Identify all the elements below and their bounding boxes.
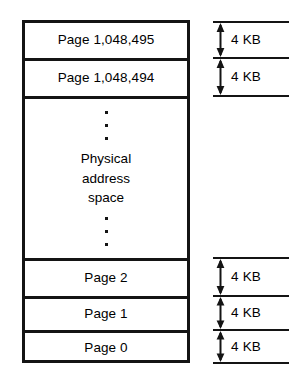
- physical-address-space-label: Physical address space: [81, 149, 131, 208]
- ellipsis-dot: [105, 243, 108, 246]
- memory-row-page-2: Page 2: [25, 261, 187, 296]
- memory-row-label: Page 1: [84, 306, 127, 323]
- memory-row-label: Page 1,048,494: [58, 70, 155, 87]
- measurement-label: 4 KB: [231, 270, 261, 284]
- ellipsis-dots-above: [105, 111, 108, 140]
- double-arrow-icon: [213, 23, 228, 57]
- measurement-label: 4 KB: [231, 70, 261, 84]
- physical-address-space-stack: Physical address space: [25, 111, 187, 246]
- measurement-label: 4 KB: [231, 306, 261, 320]
- double-arrow-icon: [213, 331, 228, 362]
- ellipsis-dot: [105, 230, 108, 233]
- ellipsis-dot: [105, 124, 108, 127]
- double-arrow-icon: [213, 59, 228, 95]
- measurement-label: 4 KB: [231, 340, 261, 354]
- memory-row-page-1: Page 1: [25, 299, 187, 330]
- ellipsis-dot: [105, 217, 108, 220]
- double-arrow-icon: [213, 259, 228, 295]
- measurement-bottom-2: 4 KB: [213, 297, 289, 329]
- measure-tick-line: [213, 95, 289, 97]
- ellipsis-dots-below: [105, 217, 108, 246]
- memory-paging-diagram: Page 1,048,495 Page 1,048,494 Physical a…: [0, 0, 302, 383]
- double-arrow-icon: [213, 297, 228, 329]
- measure-tick-line: [213, 362, 289, 364]
- memory-row-page-1048494: Page 1,048,494: [25, 61, 187, 96]
- memory-row-page-0: Page 0: [25, 333, 187, 363]
- memory-row-label: Page 1,048,495: [58, 32, 155, 49]
- physical-address-space-line-1: Physical: [81, 149, 131, 169]
- physical-address-space-line-3: space: [81, 188, 131, 208]
- measurement-label: 4 KB: [231, 33, 261, 47]
- memory-row-label: Page 2: [84, 270, 127, 287]
- memory-row-label: Page 0: [84, 340, 127, 357]
- memory-row-page-1048495: Page 1,048,495: [25, 23, 187, 58]
- memory-row-physical-address-space: Physical address space: [25, 99, 187, 258]
- physical-memory-box: Page 1,048,495 Page 1,048,494 Physical a…: [22, 20, 190, 363]
- measurement-bottom-1: 4 KB: [213, 259, 289, 295]
- ellipsis-dot: [105, 111, 108, 114]
- measurement-top-1: 4 KB: [213, 23, 289, 57]
- measurement-bottom-3: 4 KB: [213, 331, 289, 362]
- measurement-top-2: 4 KB: [213, 59, 289, 95]
- ellipsis-dot: [105, 137, 108, 140]
- physical-address-space-line-2: address: [81, 169, 131, 189]
